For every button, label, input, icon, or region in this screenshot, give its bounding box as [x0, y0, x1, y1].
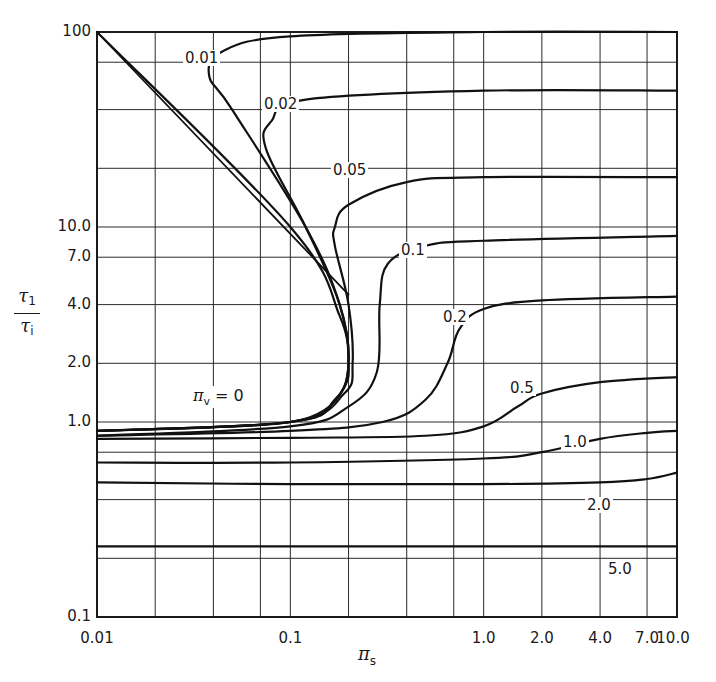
- curve-label-0-05: 0.05: [331, 162, 368, 178]
- plot-frame: [97, 32, 677, 617]
- curve-label-5-0: 5.0: [606, 561, 634, 577]
- y-tick-label: 10.0: [31, 217, 91, 235]
- curve-label-2-0: 2.0: [585, 497, 613, 513]
- curve-pi-v-1-0: [97, 431, 677, 463]
- y-tick-label: 100: [31, 22, 91, 40]
- curve-label-0-1: 0.1: [399, 242, 427, 258]
- grid-lines: [97, 32, 677, 617]
- x-axis-label: πs: [358, 643, 376, 668]
- y-axis-label: τ1 τi: [14, 285, 40, 342]
- x-tick-label: 0.01: [72, 629, 122, 647]
- curve-pi-v-2-0: [97, 473, 677, 485]
- curve-label-0-02: 0.02: [262, 96, 299, 112]
- curve-label-0-2: 0.2: [441, 309, 469, 325]
- x-tick-label: 1.0: [459, 629, 509, 647]
- y-tick-label: 7.0: [31, 247, 91, 265]
- curve-pi-v-0-01: [97, 32, 677, 431]
- curve-label-0-01: 0.01: [183, 50, 220, 66]
- y-tick-label: 1.0: [31, 412, 91, 430]
- curves-group: [97, 32, 677, 547]
- y-tick-label: 2.0: [31, 353, 91, 371]
- curve-label-1-0: 1.0: [561, 434, 589, 450]
- curve-label-0-5: 0.5: [508, 380, 536, 396]
- curve-diagonal: [97, 32, 349, 295]
- y-axis-label-numerator: τ1: [14, 285, 40, 312]
- y-axis-label-denominator: τi: [14, 315, 40, 342]
- chart-canvas: [0, 0, 716, 682]
- curve-pi-v-0: [97, 32, 349, 431]
- y-tick-label: 4.0: [31, 295, 91, 313]
- x-tick-label: 2.0: [517, 629, 567, 647]
- y-tick-label: 0.1: [31, 607, 91, 625]
- x-tick-label: 4.0: [575, 629, 625, 647]
- curve-label-pi-v-0: πv = 0: [191, 386, 246, 408]
- curve-pi-v-0-2: [97, 297, 677, 436]
- curve-pi-v-0-05: [97, 177, 677, 431]
- x-tick-label: 0.1: [265, 629, 315, 647]
- fraction-bar: [14, 313, 40, 314]
- curve-pi-v-0-02: [97, 90, 677, 431]
- x-tick-label: 10.0: [648, 629, 698, 647]
- curve-pi-v-0-1: [97, 236, 677, 436]
